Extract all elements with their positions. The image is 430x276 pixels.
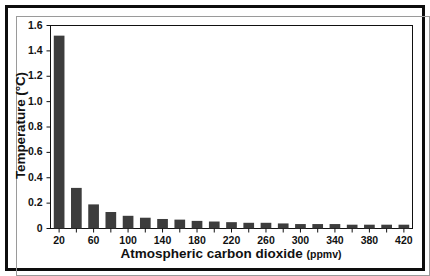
x-tick-label: 220 xyxy=(216,234,248,246)
bar xyxy=(123,216,134,229)
x-tick-label: 420 xyxy=(388,234,420,246)
x-tick-label: 300 xyxy=(284,234,316,246)
bar xyxy=(243,223,254,229)
y-tick-label: 0.6 xyxy=(17,145,43,157)
x-axis-title: Atmospheric carbon dioxide (ppmv) xyxy=(50,246,412,261)
bar xyxy=(105,212,116,228)
bar xyxy=(174,220,185,229)
bar xyxy=(278,223,289,228)
plot-area xyxy=(51,26,413,229)
x-tick-label: 380 xyxy=(353,234,385,246)
x-tick-label: 60 xyxy=(78,234,110,246)
x-axis-units-text: (ppmv) xyxy=(307,248,342,260)
bar xyxy=(157,219,168,229)
bar xyxy=(399,225,410,229)
y-tick-label: 1.0 xyxy=(17,95,43,107)
bar xyxy=(192,221,203,229)
y-tick-label: 1.6 xyxy=(17,19,43,31)
x-tick-label: 100 xyxy=(112,234,144,246)
bar xyxy=(261,223,272,229)
bar xyxy=(226,222,237,228)
bar xyxy=(347,225,358,229)
bar xyxy=(140,218,151,229)
bar xyxy=(71,188,82,229)
bar xyxy=(312,224,323,228)
y-tick-label: 0.2 xyxy=(17,196,43,208)
x-tick-label: 260 xyxy=(250,234,282,246)
x-tick-label: 20 xyxy=(43,234,75,246)
y-tick-label: 0.4 xyxy=(17,171,43,183)
bar xyxy=(54,36,65,229)
y-tick-label: 0 xyxy=(17,222,43,234)
bar xyxy=(88,204,99,228)
y-tick-label: 1.2 xyxy=(17,69,43,81)
plot-frame xyxy=(51,26,413,229)
x-axis-title-text: Atmospheric carbon dioxide xyxy=(120,246,302,261)
bar xyxy=(209,222,220,229)
x-tick-label: 140 xyxy=(147,234,179,246)
bar xyxy=(381,225,392,229)
bar xyxy=(330,224,341,228)
y-tick-label: 0.8 xyxy=(17,120,43,132)
y-tick-label: 1.4 xyxy=(17,44,43,56)
figure-root: Temperature (°C) Atmospheric carbon diox… xyxy=(0,0,430,276)
x-tick-label: 180 xyxy=(181,234,213,246)
x-tick-label: 340 xyxy=(319,234,351,246)
bar xyxy=(364,225,375,229)
bar xyxy=(295,224,306,228)
